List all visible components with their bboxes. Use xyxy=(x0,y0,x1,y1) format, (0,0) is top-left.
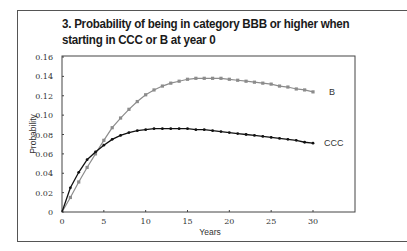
data-point xyxy=(244,80,247,83)
data-point xyxy=(186,78,189,81)
x-tick-label: 30 xyxy=(308,217,318,226)
x-axis-label: Years xyxy=(199,227,220,237)
data-point xyxy=(102,144,105,147)
y-tick-label: 0.02 xyxy=(35,189,53,198)
data-series: BCCC xyxy=(62,77,344,212)
data-point xyxy=(102,139,105,142)
data-point xyxy=(311,90,314,93)
data-point xyxy=(219,77,222,80)
y-tick-label: 0.16 xyxy=(35,53,53,62)
data-point xyxy=(69,196,72,199)
series-label-ccc: CCC xyxy=(324,138,344,148)
x-tick-label: 25 xyxy=(266,217,276,226)
y-tick-label: 0.14 xyxy=(35,72,53,81)
data-point xyxy=(119,116,122,119)
y-axis-ticks: 00.020.040.060.080.100.120.140.16 xyxy=(35,53,64,217)
data-point xyxy=(220,130,223,133)
y-tick-label: 0 xyxy=(48,208,53,217)
data-point xyxy=(161,84,164,87)
data-point xyxy=(111,138,114,141)
data-point xyxy=(94,151,97,154)
data-point xyxy=(128,131,131,134)
data-point xyxy=(303,88,306,91)
data-point xyxy=(203,128,206,131)
data-point xyxy=(169,82,172,85)
data-point xyxy=(278,137,281,140)
data-point xyxy=(286,85,289,88)
data-point xyxy=(153,127,156,130)
data-point xyxy=(228,131,231,134)
data-point xyxy=(287,138,290,141)
data-point xyxy=(127,108,130,111)
data-point xyxy=(161,127,164,130)
data-point xyxy=(261,135,264,138)
data-point xyxy=(194,128,197,131)
data-point xyxy=(144,128,147,131)
data-point xyxy=(86,166,89,169)
data-point xyxy=(136,129,139,132)
data-point xyxy=(119,134,122,137)
data-point xyxy=(169,127,172,130)
data-point xyxy=(295,139,298,142)
y-tick-label: 0.04 xyxy=(35,169,53,178)
data-point xyxy=(86,158,89,161)
x-tick-label: 5 xyxy=(101,217,106,226)
data-point xyxy=(253,134,256,137)
series-label-b: B xyxy=(329,87,335,97)
data-point xyxy=(236,132,239,135)
data-point xyxy=(270,83,273,86)
data-point xyxy=(270,136,273,139)
data-point xyxy=(253,81,256,84)
y-axis-label: Probability xyxy=(28,113,38,153)
data-point xyxy=(312,142,315,145)
data-point xyxy=(152,88,155,91)
x-tick-label: 20 xyxy=(224,217,234,226)
data-point xyxy=(203,77,206,80)
data-point xyxy=(178,80,181,83)
data-point xyxy=(194,77,197,80)
data-point xyxy=(295,87,298,90)
data-point xyxy=(136,100,139,103)
data-point xyxy=(144,93,147,96)
data-point xyxy=(228,78,231,81)
data-point xyxy=(77,171,80,174)
data-point xyxy=(278,84,281,87)
data-point xyxy=(111,126,114,129)
y-tick-label: 0.12 xyxy=(35,92,53,101)
x-tick-label: 0 xyxy=(59,217,64,226)
data-point xyxy=(303,141,306,144)
data-point xyxy=(178,127,181,130)
plot-area xyxy=(62,56,355,212)
data-point xyxy=(245,133,248,136)
data-point xyxy=(77,180,80,183)
data-point xyxy=(186,127,189,130)
data-point xyxy=(236,79,239,82)
data-point xyxy=(69,186,72,189)
data-point xyxy=(211,129,214,132)
data-point xyxy=(261,82,264,85)
x-tick-label: 10 xyxy=(141,217,151,226)
x-tick-label: 15 xyxy=(182,217,192,226)
data-point xyxy=(211,77,214,80)
